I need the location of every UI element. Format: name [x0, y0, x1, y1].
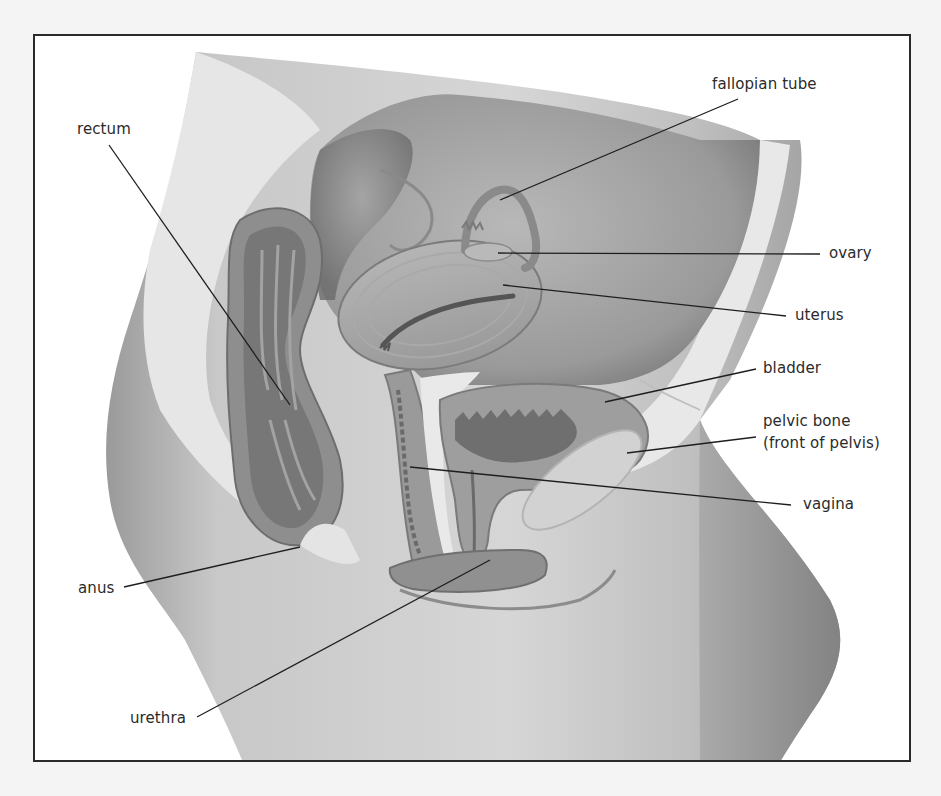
- label-vagina: vagina: [803, 494, 854, 514]
- label-fallopian-tube: fallopian tube: [712, 74, 817, 94]
- label-rectum: rectum: [77, 119, 131, 139]
- label-urethra: urethra: [130, 708, 186, 728]
- label-bladder: bladder: [763, 358, 821, 378]
- leg-shade: [699, 420, 840, 780]
- label-ovary: ovary: [829, 243, 872, 263]
- label-pelvic-bone-subtitle: (front of pelvis): [763, 433, 880, 453]
- ovary-shape: [464, 243, 512, 261]
- pelvic-anatomy-illustration: [0, 0, 941, 796]
- label-uterus: uterus: [795, 305, 844, 325]
- label-anus: anus: [78, 578, 114, 598]
- label-pelvic-bone: pelvic bone: [763, 411, 851, 431]
